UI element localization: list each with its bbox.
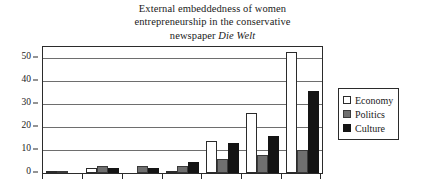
- y-tick-label: 0: [26, 167, 31, 177]
- y-tick-mark: [33, 80, 38, 81]
- bar-politics-group-5: [217, 159, 228, 173]
- bar-culture-group-4: [188, 162, 199, 173]
- y-tick-mark: [33, 172, 38, 173]
- x-tick-mark: [162, 174, 163, 179]
- legend-label-economy: Economy: [355, 95, 393, 106]
- plot-area: [42, 46, 323, 174]
- legend-item-economy[interactable]: Economy: [343, 93, 393, 107]
- x-axis: [42, 174, 323, 180]
- x-tick-mark: [320, 174, 321, 179]
- legend-swatch-culture-icon: [343, 124, 351, 132]
- legend-item-politics[interactable]: Politics: [343, 107, 393, 121]
- legend-swatch-economy-icon: [343, 96, 351, 104]
- y-tick-label: 10: [22, 144, 32, 154]
- bar-culture-group-2: [108, 168, 119, 173]
- y-axis: 01020304050: [0, 46, 38, 174]
- bar-economy-group-4: [166, 171, 177, 173]
- bar-economy-group-7: [286, 52, 297, 173]
- bar-culture-group-3: [148, 168, 159, 173]
- bar-culture-group-5: [228, 143, 239, 173]
- chart-title: External embeddedness of women entrepren…: [60, 2, 365, 42]
- bar-economy-group-5: [206, 141, 217, 173]
- y-tick-label: 40: [22, 76, 32, 86]
- bar-politics-group-6: [257, 155, 268, 173]
- y-tick-mark: [33, 103, 38, 104]
- bar-economy-group-6: [246, 113, 257, 173]
- x-tick-mark: [42, 174, 43, 179]
- bar-economy-group-2: [86, 168, 97, 173]
- x-tick-mark: [201, 174, 202, 179]
- chart-title-line-3: newspaper: [170, 30, 219, 41]
- bar-politics-group-3: [137, 166, 148, 173]
- x-tick-mark: [82, 174, 83, 179]
- legend-label-culture: Culture: [355, 123, 385, 134]
- y-tick-mark: [33, 57, 38, 58]
- bar-economy-group-1: [46, 171, 57, 173]
- legend-item-culture[interactable]: Culture: [343, 121, 393, 135]
- bar-politics-group-2: [97, 166, 108, 173]
- y-tick-mark: [33, 149, 38, 150]
- y-tick-label: 50: [22, 53, 32, 63]
- bar-politics-group-1: [57, 171, 68, 173]
- chart-figure: External embeddedness of women entrepren…: [0, 0, 425, 187]
- y-tick-label: 20: [22, 121, 32, 131]
- chart-title-line-2: entrepreneurship in the conservative: [134, 16, 290, 27]
- bars-layer: [43, 47, 322, 173]
- x-tick-mark: [122, 174, 123, 179]
- bar-culture-group-7: [308, 91, 319, 173]
- y-tick-mark: [33, 126, 38, 127]
- y-tick-label: 30: [22, 99, 32, 109]
- bar-politics-group-7: [297, 150, 308, 173]
- chart-title-publication: Die Welt: [218, 30, 255, 41]
- legend-swatch-politics-icon: [343, 110, 351, 118]
- x-tick-mark: [281, 174, 282, 179]
- bar-culture-group-6: [268, 136, 279, 173]
- legend-label-politics: Politics: [355, 109, 385, 120]
- chart-title-line-1: External embeddedness of women: [139, 3, 286, 14]
- bar-politics-group-4: [177, 166, 188, 173]
- x-tick-mark: [241, 174, 242, 179]
- chart-legend: Economy Politics Culture: [338, 88, 399, 140]
